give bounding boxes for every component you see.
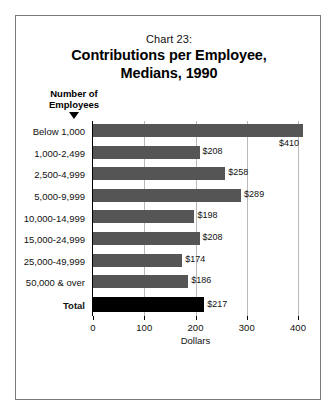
category-label: 2,500-4,999 (16, 164, 89, 186)
category-label: Total (16, 294, 89, 317)
axis-tick-label-0: 0 (90, 322, 95, 333)
value-axis-title: Dollars (93, 335, 298, 346)
bar[interactable] (93, 275, 188, 288)
bar-row: $410 (93, 121, 298, 143)
bar-row: $198 (93, 207, 298, 229)
bar-value-label: $258 (228, 166, 248, 179)
bar-row: $174 (93, 251, 298, 273)
value-axis: 0100200300400 Dollars (93, 316, 298, 346)
bar-value-label: $289 (244, 188, 264, 201)
category-axis-caption: Number of Employees (34, 88, 114, 119)
bar[interactable] (93, 146, 200, 159)
axis-tick-100 (144, 316, 145, 320)
axis-tick-400 (298, 316, 299, 320)
category-label: 1,000-2,499 (16, 143, 89, 165)
bar-row: $217 (93, 294, 298, 317)
bar-value-label: $198 (197, 209, 217, 222)
bar-value-label: $174 (185, 253, 205, 266)
chart-title-block: Chart 23: Contributions per Employee, Me… (16, 32, 322, 82)
axis-tick-200 (196, 316, 197, 320)
page-title-line-2: Medians, 1990 (16, 64, 322, 82)
category-label: 25,000-49,999 (16, 251, 89, 273)
axis-tick-label-400: 400 (290, 322, 306, 333)
category-axis-caption-line-1: Number of (34, 88, 114, 99)
axis-tick-300 (247, 316, 248, 320)
bar-row: $258 (93, 164, 298, 186)
bar-row: $289 (93, 186, 298, 208)
bar-row: $208 (93, 143, 298, 165)
bar-value-label: $208 (203, 145, 223, 158)
bar[interactable] (93, 124, 303, 137)
category-label: 10,000-14,999 (16, 207, 89, 229)
axis-tick-label-200: 200 (188, 322, 204, 333)
bar[interactable] (93, 210, 194, 223)
bar-rows: $410$208$258$289$198$208$174$186$217 (93, 121, 298, 316)
category-axis-caption-line-2: Employees (34, 99, 114, 110)
category-label: 15,000-24,999 (16, 229, 89, 251)
category-label: 50,000 & over (16, 272, 89, 294)
bar[interactable] (93, 297, 204, 312)
page-title-line-1: Contributions per Employee, (16, 46, 322, 64)
bar-row: $186 (93, 272, 298, 294)
bar-value-label: $208 (203, 231, 223, 244)
category-axis-labels: Below 1,0001,000-2,4992,500-4,9995,000-9… (16, 121, 89, 316)
bar[interactable] (93, 189, 241, 202)
axis-tick-0 (93, 316, 94, 320)
category-label: Below 1,000 (16, 121, 89, 143)
bar[interactable] (93, 232, 200, 245)
gridline-400 (298, 121, 299, 316)
bar-value-label: $186 (191, 274, 211, 287)
bar[interactable] (93, 254, 182, 267)
chart-number: Chart 23: (16, 32, 322, 46)
axis-tick-label-300: 300 (239, 322, 255, 333)
down-arrow-icon (69, 112, 79, 119)
plot-area: $410$208$258$289$198$208$174$186$217 (93, 121, 298, 316)
chart-frame: Chart 23: Contributions per Employee, Me… (15, 15, 321, 400)
bar[interactable] (93, 167, 225, 180)
bar-value-label: $217 (207, 297, 227, 312)
category-label: 5,000-9,999 (16, 186, 89, 208)
bar-row: $208 (93, 229, 298, 251)
axis-tick-label-100: 100 (136, 322, 152, 333)
